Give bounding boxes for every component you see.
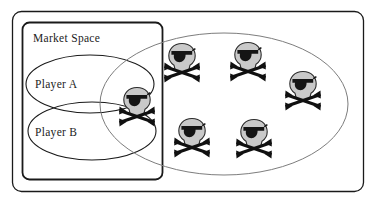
player-b-label: Player B [35, 126, 77, 139]
pirate-icon-5 [236, 120, 272, 159]
pirate-icon-overlap [119, 88, 155, 127]
pirate-icon-4 [174, 119, 210, 158]
diagram-canvas: Market Space Player A Player B [0, 0, 376, 208]
pirate-icon-3 [285, 72, 321, 111]
pirate-icon-1 [164, 44, 200, 83]
diagram-svg: Market Space Player A Player B [0, 0, 376, 208]
market-space-label: Market Space [33, 32, 100, 45]
player-a-label: Player A [35, 78, 78, 91]
pirate-icon-2 [230, 43, 266, 82]
